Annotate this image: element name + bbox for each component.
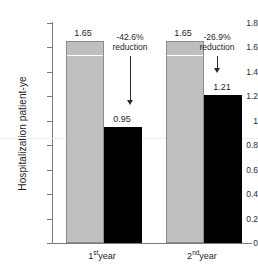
bar-chart: Hospitalization patient-ye 1.81.61.41.21… [0,0,258,271]
y-axis-title: Hospitalization patient-ye [17,34,28,234]
y-axis-tick [47,243,53,244]
value-label-black-1st-year: 0.95 [86,115,158,124]
annotation-arrow-head-2 [214,68,220,73]
bar-gray-2nd-year[interactable] [166,41,204,243]
annotation-arrow-shaft-1 [130,56,131,102]
bar-black-2nd-year[interactable] [204,95,242,243]
annotation-reduction-2nd-year: -26.9% reduction [187,32,247,52]
annotation-line1: -26.9% [187,32,247,42]
annotation-line2: reduction [187,42,247,52]
bar-black-1st-year[interactable] [104,127,142,243]
bar-inner-line [167,55,203,56]
plot-area [52,23,252,243]
annotation-reduction-1st-year: -42.6% reduction [100,32,160,52]
annotation-line1: -42.6% [100,32,160,42]
bar-inner-line [67,55,103,56]
annotation-line2: reduction [100,42,160,52]
annotation-arrow-head-1 [127,100,133,105]
value-label-black-2nd-year: 1.21 [186,83,258,92]
category-label-1st-year: 1styear [62,252,142,261]
category-unit: year [98,251,116,261]
bar-gray-1st-year[interactable] [66,41,104,243]
category-unit: year [199,251,217,261]
category-label-2nd-year: 2ndyear [162,252,242,261]
